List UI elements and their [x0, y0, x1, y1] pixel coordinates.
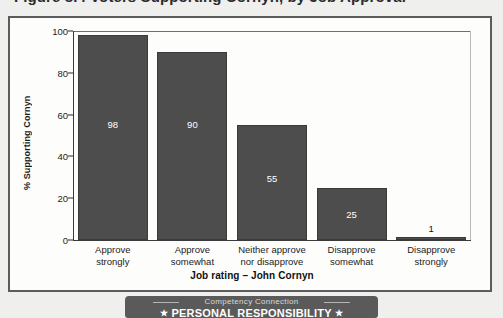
- bar-slot-approve-strongly: 98: [73, 31, 153, 240]
- chart-screenshot: Figure 8.4 Voters Supporting Cornyn, by …: [0, 0, 503, 318]
- bar-slot-approve-somewhat: 90: [153, 31, 233, 240]
- x-label-disapprove-strongly: Disapprove strongly: [391, 244, 471, 267]
- competency-connection-banner: Competency Connection ★ PERSONAL RESPONS…: [125, 296, 378, 318]
- x-label-line1: Approve: [153, 244, 233, 256]
- bar-approve-strongly[interactable]: [78, 35, 148, 240]
- y-axis-ticks: 100 80 60 40 20 0: [34, 18, 74, 290]
- bar-approve-somewhat[interactable]: [157, 52, 227, 240]
- chart-frame: % Supporting Cornyn 100 80 60 40 20 0: [8, 16, 492, 292]
- bar-slot-disapprove-strongly: 1: [391, 31, 471, 240]
- plot-area: % Supporting Cornyn 100 80 60 40 20 0: [10, 18, 490, 290]
- x-label-line1: Disapprove: [312, 244, 392, 256]
- x-label-line1: Neither approve: [232, 244, 312, 256]
- x-axis-title: Job rating – John Cornyn: [10, 270, 494, 281]
- banner-title: PERSONAL RESPONSIBILITY: [171, 307, 331, 318]
- x-label-line2: nor disapprove: [232, 256, 312, 268]
- bar-value-disapprove-strongly: 1: [429, 223, 434, 234]
- bar-value-disapprove-somewhat: 25: [346, 209, 357, 220]
- x-label-approve-somewhat: Approve somewhat: [153, 244, 233, 267]
- x-label-line1: Approve: [73, 244, 153, 256]
- y-tick-label-20: 20: [57, 193, 68, 204]
- x-label-line1: Disapprove: [391, 244, 471, 256]
- bar-slot-disapprove-somewhat: 25: [312, 31, 392, 240]
- banner-eyebrow: Competency Connection: [125, 297, 378, 306]
- x-axis-line: [73, 240, 471, 241]
- star-icon-right: ★: [335, 308, 343, 318]
- cut-off-headline: Figure 8.4 Voters Supporting Cornyn, by …: [0, 0, 503, 9]
- x-label-line2: strongly: [73, 256, 153, 268]
- x-label-neither: Neither approve nor disapprove: [232, 244, 312, 267]
- bar-disapprove-strongly[interactable]: [396, 237, 466, 240]
- bar-value-neither: 55: [267, 173, 278, 184]
- y-tick-label-60: 60: [57, 109, 68, 120]
- x-label-approve-strongly: Approve strongly: [73, 244, 153, 267]
- x-label-line2: strongly: [391, 256, 471, 268]
- x-label-disapprove-somewhat: Disapprove somewhat: [312, 244, 392, 267]
- y-tick-label-100: 100: [52, 26, 68, 37]
- x-label-line2: somewhat: [153, 256, 233, 268]
- headline-text: Figure 8.4 Voters Supporting Cornyn, by …: [14, 0, 406, 5]
- bars-layer: 98 90 55 25 1: [73, 31, 471, 240]
- banner-title-row: ★ PERSONAL RESPONSIBILITY ★: [125, 307, 378, 318]
- y-tick-label-40: 40: [57, 151, 68, 162]
- bar-value-approve-strongly: 98: [108, 119, 119, 130]
- x-label-line2: somewhat: [312, 256, 392, 268]
- bar-slot-neither: 55: [232, 31, 312, 240]
- bar-value-approve-somewhat: 90: [187, 119, 198, 130]
- star-icon-left: ★: [160, 308, 168, 318]
- y-tick-label-80: 80: [57, 67, 68, 78]
